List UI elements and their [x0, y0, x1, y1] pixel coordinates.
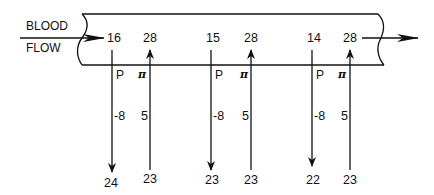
pi-bottom-value-2: 23: [244, 174, 258, 186]
p-top-value-3: 14: [306, 32, 322, 44]
p-net-value-1: -8: [114, 110, 125, 122]
pi-net-value-2: 5: [242, 110, 249, 122]
flow-label: FLOW: [26, 42, 61, 54]
pi-label-3: π: [338, 69, 346, 81]
p-bottom-value-1: 24: [104, 177, 118, 189]
pi-top-value-2: 28: [243, 32, 259, 44]
p-net-value-3: -8: [314, 110, 325, 122]
pi-top-value-1: 28: [142, 32, 158, 44]
p-bottom-value-2: 23: [205, 174, 219, 186]
p-label-1: P: [116, 69, 124, 81]
pi-label-1: π: [138, 69, 146, 81]
blood-label: BLOOD: [26, 20, 68, 32]
p-top-value-2: 15: [205, 32, 221, 44]
vessel-tube: [78, 14, 385, 65]
pi-bottom-value-3: 23: [343, 174, 357, 186]
pi-top-value-3: 28: [342, 32, 358, 44]
p-label-2: P: [215, 69, 223, 81]
pi-net-value-3: 5: [341, 110, 348, 122]
pi-bottom-value-1: 23: [143, 173, 157, 185]
p-net-value-2: -8: [213, 110, 224, 122]
p-label-3: P: [316, 69, 324, 81]
p-top-value-1: 16: [106, 32, 122, 44]
pi-label-2: π: [240, 69, 248, 81]
p-bottom-value-3: 22: [306, 174, 320, 186]
pi-net-value-1: 5: [141, 110, 148, 122]
